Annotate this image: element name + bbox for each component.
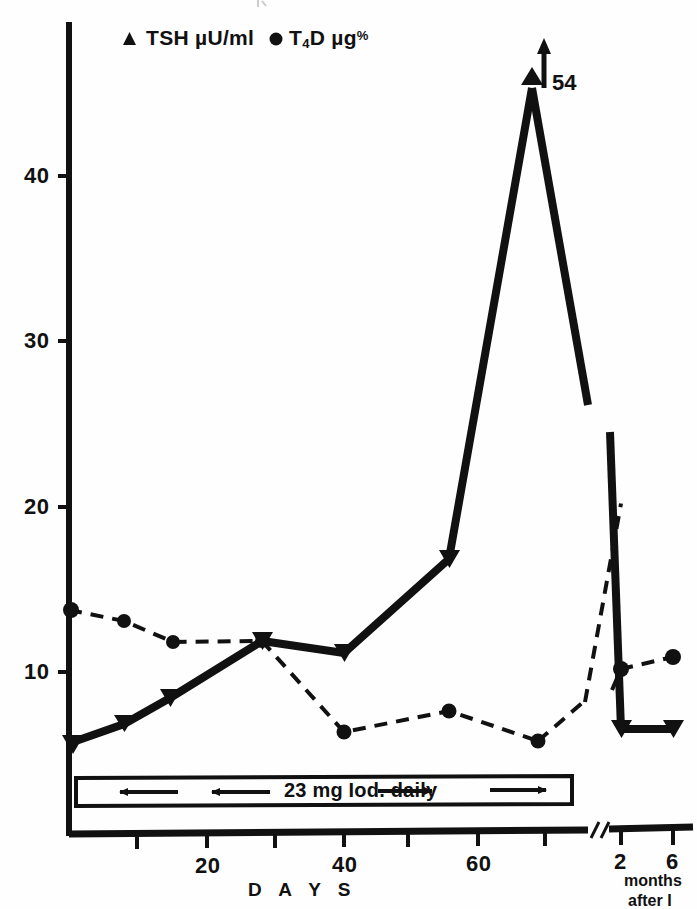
x-axis: [69, 822, 693, 849]
series-tsh-line: [73, 88, 673, 742]
legend-t4d-mid: D µg: [310, 26, 357, 49]
legend-circle-marker: [270, 33, 283, 46]
peak-value-label: 54: [552, 72, 576, 94]
scan-artifact-top: [258, 0, 266, 7]
x-tick-label-20: 20: [195, 855, 220, 877]
x-tick-label-6-months: 6: [666, 851, 679, 873]
series-tsh-markers: [62, 67, 684, 754]
x-axis-after-i-caption: after I: [628, 893, 672, 909]
x-axis-months-caption: months: [624, 873, 682, 889]
chart-canvas: [0, 0, 697, 909]
chart-figure: TSH µU/ml T4D µg% 40 30 20 10 20 40 60 2…: [0, 0, 697, 909]
legend-label-t4d: T4D µg%: [289, 27, 369, 50]
legend-triangle-marker: [123, 32, 136, 45]
y-tick-label-40: 40: [24, 165, 49, 187]
x-tick-label-40: 40: [332, 854, 357, 876]
x-axis-title: D A Y S: [248, 880, 357, 899]
legend-t4d-sub: 4: [302, 36, 310, 51]
legend-label-tsh: TSH µU/ml: [146, 27, 254, 48]
legend-t4d-sup: %: [357, 28, 369, 43]
treatment-bar-label: 23 mg Iod. daily: [284, 780, 437, 800]
y-tick-label-20: 20: [24, 496, 49, 518]
y-tick-label-10: 10: [24, 661, 49, 683]
y-axis: [58, 22, 69, 836]
y-tick-label-30: 30: [24, 330, 49, 352]
legend-t4d-main: T: [289, 26, 302, 49]
x-tick-label-60: 60: [466, 853, 491, 875]
x-tick-label-2-months: 2: [614, 851, 627, 873]
